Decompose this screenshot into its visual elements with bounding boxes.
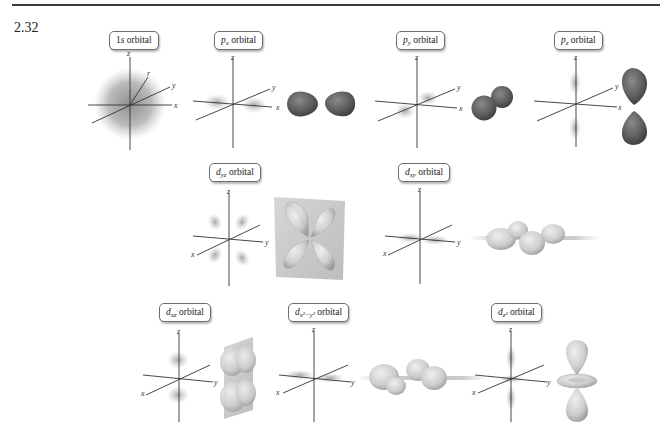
svg-text:x: x: [275, 388, 280, 397]
svg-text:z: z: [230, 53, 235, 62]
orbital-pz: z y x: [534, 53, 647, 147]
svg-text:x: x: [471, 388, 476, 397]
orbital-dyz: z y x: [190, 187, 345, 286]
svg-text:y: y: [614, 82, 619, 91]
svg-text:x: x: [173, 101, 178, 110]
svg-text:x: x: [382, 249, 387, 258]
p-lobe: [325, 92, 355, 117]
d-lobe: [519, 231, 545, 255]
svg-text:x: x: [458, 104, 463, 113]
svg-text:y: y: [350, 378, 355, 387]
svg-text:z: z: [508, 325, 513, 334]
svg-text:x: x: [275, 103, 280, 112]
svg-text:z: z: [417, 185, 422, 194]
p-lobe: [622, 68, 647, 105]
orbital-dxy: z y x: [382, 185, 600, 284]
svg-text:x: x: [190, 250, 195, 259]
svg-text:y: y: [456, 83, 461, 92]
orbital-1s: z y x r: [88, 49, 178, 150]
p-lobe: [622, 111, 647, 145]
svg-text:y: y: [213, 378, 218, 387]
d-lobe: [566, 387, 588, 422]
svg-text:z: z: [226, 187, 231, 196]
p-lobe: [472, 96, 497, 121]
p-lobe: [287, 92, 318, 117]
svg-text:z: z: [573, 53, 578, 62]
orbital-py: z y x: [375, 53, 513, 148]
svg-text:x: x: [617, 103, 622, 112]
svg-text:x: x: [140, 389, 145, 398]
orbital-px: z y x: [193, 53, 355, 148]
svg-text:y: y: [264, 238, 269, 247]
svg-text:z: z: [414, 53, 419, 62]
svg-text:y: y: [456, 238, 461, 247]
d-lobe: [566, 340, 588, 375]
orbital-dx2y2: z y x: [275, 325, 488, 422]
orbital-figures: z y x r z y x z y x: [0, 0, 660, 433]
svg-text:z: z: [126, 49, 131, 58]
svg-text:z: z: [311, 325, 316, 334]
svg-text:y: y: [546, 378, 551, 387]
orbital-dz2: z y x: [471, 325, 597, 422]
svg-text:z: z: [176, 327, 181, 336]
orbital-dxz: z y x: [140, 327, 256, 422]
svg-text:y: y: [271, 83, 276, 92]
svg-text:y: y: [171, 81, 176, 90]
